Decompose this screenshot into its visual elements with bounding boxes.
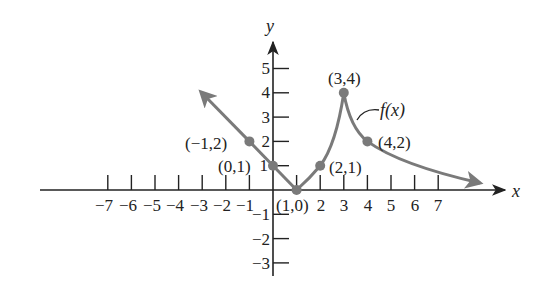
x-tick-label: −7 (95, 196, 114, 215)
y-tick-label: 5 (262, 59, 271, 78)
x-tick-label: 5 (387, 196, 396, 215)
y-tick-label: −1 (252, 205, 270, 224)
function-graph: x y −7 −6 −5 −4 −3 −2 −1 2 3 4 5 6 7 (0, 0, 541, 289)
y-tick-label: −2 (252, 230, 270, 249)
x-tick-label: 3 (340, 196, 349, 215)
y-axis-label: y (264, 16, 274, 36)
point-label: (3,4) (328, 69, 361, 88)
x-tick-label: −3 (190, 196, 208, 215)
y-tick-label: −3 (252, 254, 270, 273)
point-4-2 (362, 136, 372, 146)
point-1-0 (292, 185, 302, 195)
point-2-1 (315, 161, 325, 171)
x-tick-label: −5 (143, 196, 161, 215)
x-tick-label: −6 (119, 196, 137, 215)
x-tick-label: 7 (434, 196, 443, 215)
y-tick-labels: 5 4 3 2 1 −1 −2 −3 (252, 59, 271, 273)
point-m1-2 (244, 136, 254, 146)
point-3-4 (339, 88, 349, 98)
x-tick-label: −2 (213, 196, 231, 215)
x-tick-label: 6 (411, 196, 420, 215)
point-label: (2,1) (329, 158, 362, 177)
x-axis-label: x (511, 181, 520, 201)
x-tick-label: −4 (166, 196, 185, 215)
function-label: f(x) (380, 100, 405, 121)
y-tick-label: 4 (262, 83, 271, 102)
point-label: (4,2) (378, 133, 411, 152)
point-label: (−1,2) (185, 134, 227, 153)
x-tick-label: 2 (317, 196, 326, 215)
x-tick-label: 4 (364, 196, 373, 215)
y-tick-label: 2 (262, 132, 271, 151)
point-label: (1,0) (276, 196, 309, 215)
point-label: (0,1) (218, 157, 251, 176)
point-0-1 (268, 161, 278, 171)
y-tick-label: 3 (262, 108, 271, 127)
function-leader-line (357, 110, 379, 120)
